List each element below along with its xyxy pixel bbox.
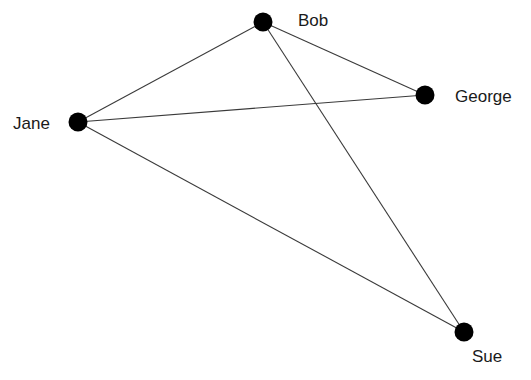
node-dot-jane bbox=[69, 113, 88, 132]
node-label-george: George bbox=[455, 87, 512, 106]
node-george: George bbox=[416, 86, 512, 107]
node-dot-george bbox=[416, 86, 435, 105]
edge-bob-jane bbox=[78, 22, 263, 122]
graph-canvas: BobJaneGeorgeSue bbox=[0, 0, 531, 380]
node-sue: Sue bbox=[455, 323, 503, 367]
nodes-layer: BobJaneGeorgeSue bbox=[13, 11, 512, 366]
edges-layer bbox=[78, 22, 464, 332]
node-label-jane: Jane bbox=[13, 114, 50, 133]
node-label-bob: Bob bbox=[298, 11, 328, 30]
edge-jane-george bbox=[78, 95, 425, 122]
node-bob: Bob bbox=[254, 11, 329, 32]
edge-jane-sue bbox=[78, 122, 464, 332]
edge-bob-sue bbox=[263, 22, 464, 332]
node-label-sue: Sue bbox=[472, 347, 502, 366]
node-jane: Jane bbox=[13, 113, 88, 134]
node-dot-sue bbox=[455, 323, 474, 342]
node-dot-bob bbox=[254, 13, 273, 32]
